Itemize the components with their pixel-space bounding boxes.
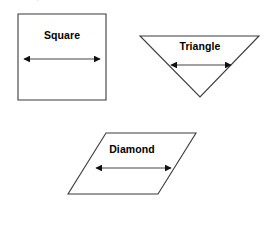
square-label: Square [18, 30, 106, 41]
shape-group-square [18, 14, 106, 100]
diamond-label: Diamond [88, 144, 176, 155]
square-outline [18, 14, 106, 100]
triangle-label: Triangle [156, 41, 244, 52]
figure-canvas: . Square Triangle Diamond [0, 0, 270, 247]
